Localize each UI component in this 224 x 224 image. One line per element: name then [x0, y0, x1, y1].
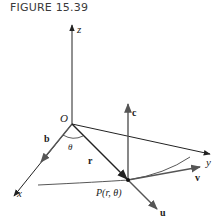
point-p: [126, 178, 130, 182]
point-label: P(r, θ): [95, 187, 122, 199]
trajectory-curve: [38, 157, 190, 185]
vector-v: [128, 167, 200, 180]
x-axis-label: x: [16, 187, 22, 199]
vector-r: [72, 124, 127, 179]
vector-r-label: r: [88, 155, 93, 166]
vector-u-label: u: [160, 207, 166, 218]
polar-vectors-diagram: z y x O θ r b c v u P(r, θ): [0, 0, 224, 224]
vector-u: [128, 180, 157, 209]
vector-v-label: v: [195, 172, 200, 183]
z-axis-label: z: [76, 23, 82, 35]
vector-c-label: c: [132, 107, 137, 118]
y-axis: [72, 124, 210, 154]
theta-arc: [63, 135, 83, 138]
vector-b-label: b: [44, 133, 50, 144]
y-axis-label: y: [205, 156, 211, 168]
origin-label: O: [60, 112, 68, 124]
angle-label: θ: [68, 142, 73, 152]
